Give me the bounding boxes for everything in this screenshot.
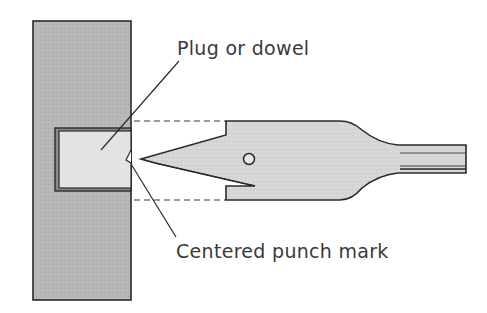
label-centered-punch-mark: Centered punch mark [176, 240, 389, 262]
label-plug-or-dowel: Plug or dowel [177, 37, 309, 59]
bit-hole [244, 154, 255, 165]
spade-bit [141, 121, 466, 200]
plug [55, 128, 131, 191]
